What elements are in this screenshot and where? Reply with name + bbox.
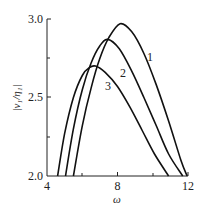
curves [58, 24, 188, 176]
curve-label-2: 2 [120, 66, 126, 80]
curve-label-3: 3 [105, 79, 111, 93]
y-axis-title: |ν₁/η₁| [10, 84, 22, 111]
y-tick-label: 3.0 [28, 12, 43, 26]
y-tick-label: 2.5 [28, 90, 43, 104]
x-tick-label: 8 [115, 179, 121, 193]
curve-label-1: 1 [147, 50, 153, 64]
x-tick-label: 12 [182, 179, 194, 193]
y-tick-label: 2.0 [28, 169, 43, 183]
chart: 3.0 2.5 2.0 4 8 12 ω |ν₁/η₁| 1 2 3 [0, 0, 207, 212]
curve-2 [66, 39, 183, 176]
x-tick-label: 4 [44, 179, 50, 193]
x-axis-title: ω [113, 193, 121, 205]
curve-1 [73, 24, 187, 176]
